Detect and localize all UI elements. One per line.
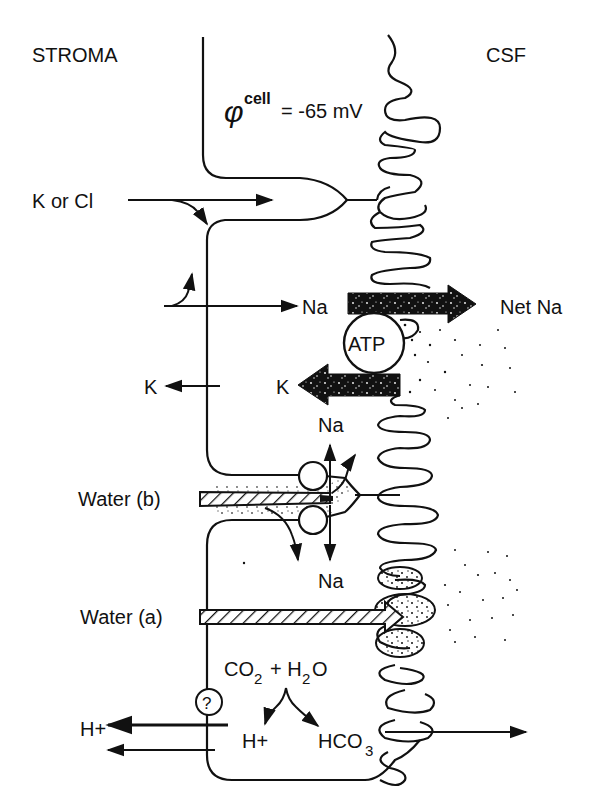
co2-h2o-equation: CO 2 + H 2 O (224, 658, 328, 687)
water-a-label: Water (a) (80, 606, 163, 628)
water-b-hatched-arrow (200, 492, 330, 506)
junction-protein-upper (299, 462, 327, 490)
hco3-subscript: 3 (365, 742, 373, 759)
proton-exit-arrows (108, 725, 228, 750)
h2o-o-text: O (312, 658, 328, 680)
co2-text: CO (224, 658, 254, 680)
k-pump-label: K (276, 376, 290, 398)
potential-value: = -65 mV (281, 100, 363, 122)
h-plus-stroma-label: H+ (80, 718, 106, 740)
csf-label: CSF (486, 44, 526, 66)
potential-superscript: cell (244, 90, 271, 107)
atp-label: ATP (348, 333, 385, 355)
plus-h-text: + H (270, 658, 302, 680)
k-or-cl-label: K or Cl (32, 190, 93, 212)
choroid-plexus-transport-diagram: STROMA CSF φ cell = -65 mV K or Cl Na Ne… (0, 0, 602, 802)
junction-protein-lower (299, 506, 327, 534)
water-b-pathway (200, 462, 360, 534)
stroma-label: STROMA (32, 44, 118, 66)
na-up-label: Na (318, 414, 344, 436)
co2-subscript: 2 (254, 670, 262, 687)
diagram-canvas: STROMA CSF φ cell = -65 mV K or Cl Na Ne… (0, 0, 602, 802)
na-entry-label: Na (302, 296, 328, 318)
bicarbonate-label: HCO 3 (318, 730, 373, 759)
water-b-label: Water (b) (78, 488, 161, 510)
h-plus-cell-label: H+ (242, 730, 268, 752)
h2o-subscript: 2 (302, 670, 310, 687)
na-entry-arrows (164, 274, 297, 306)
hco-text: HCO (318, 730, 362, 752)
net-na-label: Net Na (500, 296, 563, 318)
question-mark: ? (202, 694, 211, 713)
water-a-pathway (200, 602, 403, 632)
water-a-hatched-arrow (200, 602, 403, 632)
na-down-label: Na (318, 570, 344, 592)
phi-symbol: φ (224, 95, 244, 128)
microvilli-border (355, 35, 440, 785)
k-exit-label: K (144, 376, 158, 398)
cell-potential: φ cell = -65 mV (224, 90, 363, 128)
